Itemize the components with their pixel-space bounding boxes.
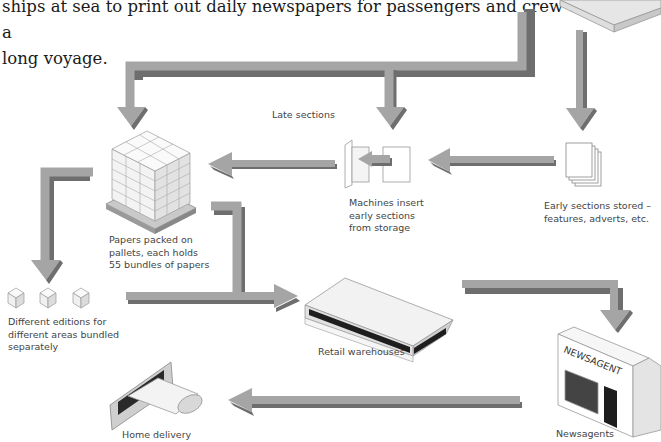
letterbox-icon [110, 362, 205, 430]
warehouses-to-newsagents-arrow [462, 284, 633, 333]
newsagents-label: Newsagents [556, 428, 614, 441]
editions-label: Different editions for different areas b… [8, 316, 119, 354]
bundles-icon [8, 288, 89, 308]
pallet-icon [106, 131, 196, 234]
newsagents-to-home-arrow [228, 388, 522, 416]
early-sections-label: Early sections stored – features, advert… [544, 200, 651, 225]
early-sections-icon [566, 143, 601, 186]
newsagent-icon: NEWSAGENT [558, 327, 661, 437]
pallets-to-editions-arrow [31, 172, 93, 284]
press-to-storage-arrow [566, 30, 597, 131]
machines-icon [345, 140, 410, 188]
warehouses-label: Retail warehouses [318, 346, 405, 359]
machines-label: Machines insert early sections from stor… [349, 197, 424, 235]
home-delivery-label: Home delivery [122, 429, 191, 442]
storage-to-machines-arrow [428, 148, 556, 175]
pallets-label: Papers packed on pallets, each holds 55 … [109, 234, 209, 272]
late-sections-label: Late sections [272, 109, 335, 122]
machines-to-pallets-arrow [208, 152, 337, 179]
printing-press-icon [560, 0, 661, 32]
